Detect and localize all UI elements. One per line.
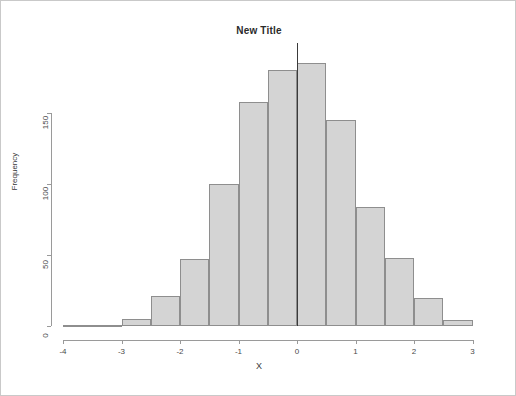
y-axis-tick-label: 150 [41,113,50,133]
histogram-bar [151,296,180,326]
histogram-bar [92,325,121,327]
x-axis-label: X [1,361,516,371]
y-axis-label: Frequency [10,177,19,191]
histogram-bar [122,319,151,326]
x-axis-tick-label: -2 [170,347,190,356]
x-axis-tick [63,340,64,344]
zero-reference-line-icon [297,43,298,326]
x-axis-tick-label: 0 [287,347,307,356]
histogram-bar [443,320,472,326]
y-axis-tick-label: 50 [41,255,50,275]
x-axis-tick [180,340,181,344]
histogram-bar [385,258,414,326]
y-axis-tick-label: 0 [41,326,50,346]
x-axis-tick-label: 2 [404,347,424,356]
histogram-bar [180,259,209,326]
histogram-bar [356,207,385,326]
x-axis-tick-label: -1 [229,347,249,356]
x-axis-line [63,340,473,341]
x-axis-tick [297,340,298,344]
x-axis-tick-label: 3 [463,347,483,356]
histogram-bar [268,70,297,326]
chart-title: New Title [1,25,516,36]
histogram-bar [326,120,355,326]
y-axis-line [51,113,52,326]
x-axis-tick [239,340,240,344]
x-axis-tick-label: 1 [346,347,366,356]
x-axis-tick-label: -4 [53,347,73,356]
figure-frame: New Title X Frequency 050100150-4-3-2-10… [0,0,516,396]
x-axis-tick [356,340,357,344]
histogram-plot: New Title X Frequency 050100150-4-3-2-10… [1,1,516,396]
histogram-bar [63,325,92,327]
x-axis-tick-label: -3 [112,347,132,356]
histogram-bar [414,298,443,326]
y-axis-tick-label: 100 [41,184,50,204]
x-axis-tick [473,340,474,344]
histogram-bar [209,184,238,326]
histogram-bar [239,102,268,326]
histogram-bar [297,63,326,326]
x-axis-tick [122,340,123,344]
x-axis-tick [414,340,415,344]
